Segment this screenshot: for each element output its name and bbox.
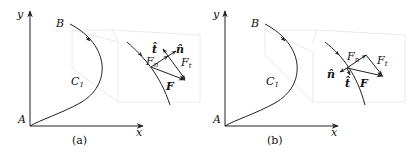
x-axis-label: x: [331, 126, 338, 139]
inset-force-decomposition: Fn Ft n̂ t̂ F: [325, 42, 388, 105]
normal-component-label: Fn: [346, 50, 360, 64]
unit-normal-n: [340, 68, 347, 72]
curve-c1: [225, 24, 297, 126]
curve-c1: [30, 24, 102, 126]
inset-curve: [127, 42, 170, 105]
unit-normal-n: [168, 51, 176, 56]
panel-b: y x A B C1 (b) Fn Ft n̂ t̂ F: [212, 8, 405, 147]
tangent-component-label: Ft: [180, 56, 192, 70]
origin-label-A: A: [212, 113, 221, 126]
inset-curve-arrow-icon: [337, 53, 339, 55]
force-label: F: [165, 80, 175, 93]
force-label: F: [359, 77, 369, 90]
unit-tangent-label: t̂: [345, 76, 350, 90]
origin-label-A: A: [17, 113, 26, 126]
start-label-B: B: [55, 17, 64, 30]
unit-tangent-t: [163, 49, 168, 56]
normal-component-label: Fn: [145, 55, 159, 69]
inset-force-decomposition: t̂ n̂ Fn Ft F: [127, 42, 192, 105]
inset-curve-arrow-icon: [140, 54, 142, 56]
curve-label-c1: C1: [266, 75, 279, 89]
panel-caption: (b): [267, 134, 283, 147]
y-axis-label: y: [16, 8, 24, 21]
panel-caption: (a): [72, 134, 87, 147]
unit-normal-label: n̂: [327, 68, 335, 81]
figure: y x A B C1 (a) t̂ n̂ Fn Ft F: [0, 0, 410, 154]
y-axis-label: y: [212, 8, 220, 21]
panel-a: y x A B C1 (a) t̂ n̂ Fn Ft F: [16, 8, 200, 147]
curve-label-c1: C1: [71, 75, 84, 89]
start-label-B: B: [250, 17, 259, 30]
x-axis-label: x: [136, 126, 143, 139]
tangent-component-label: Ft: [376, 54, 388, 68]
unit-normal-label: n̂: [176, 43, 184, 56]
unit-tangent-label: t̂: [152, 42, 157, 56]
